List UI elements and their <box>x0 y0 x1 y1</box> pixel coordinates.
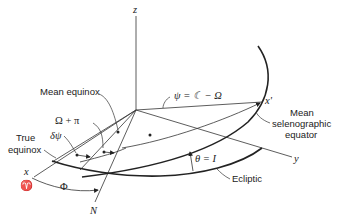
selenographic-equator-curve <box>82 46 268 177</box>
true-equinox-label-1: True <box>16 132 35 143</box>
z-axis-label: z <box>132 4 137 15</box>
theta-arrow <box>190 152 193 171</box>
psi-label: ψ = ☾ − Ω <box>174 90 222 101</box>
selenographic-label-3: equator <box>285 129 317 140</box>
omega-plus-pi-label: Ω + π <box>55 115 80 126</box>
theta-label: θ = I <box>195 153 216 164</box>
mean-equinox-label: Mean equinox <box>40 86 100 97</box>
lunar-orientation-diagram: z x' y x ♈ N θ = I ψ = ☾ − Ω Ω + π δψ Φ … <box>0 0 338 218</box>
x-prime-axis <box>136 102 262 110</box>
ecliptic-curve <box>52 148 262 176</box>
node-label: N <box>89 205 98 216</box>
origin-to-equator-line <box>80 110 136 170</box>
selenographic-label-1: Mean <box>290 107 314 118</box>
omega-plus-pi-arc <box>80 148 126 162</box>
y-axis-label: y <box>293 153 299 164</box>
phi-label: Φ <box>60 181 68 192</box>
delta-psi-label: δψ <box>50 130 62 141</box>
aries-symbol: ♈ <box>20 179 33 192</box>
x-axis-label: x <box>23 166 29 177</box>
true-equinox-label-2: equinox <box>8 144 42 155</box>
ecliptic-label: Ecliptic <box>232 173 262 184</box>
selenographic-label-2: selenographic <box>272 118 331 129</box>
y-axis <box>136 110 292 157</box>
